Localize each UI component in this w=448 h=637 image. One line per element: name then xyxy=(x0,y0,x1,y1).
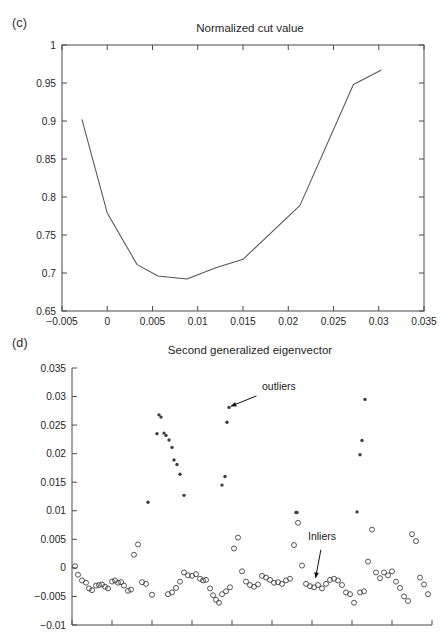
y-tick-label: 0.7 xyxy=(42,268,56,279)
y-tick-label: 0.035 xyxy=(41,363,67,374)
outlier-point xyxy=(172,458,175,461)
outlier-point xyxy=(295,511,298,514)
inlier-point xyxy=(398,585,403,590)
x-tick-label: 0.01 xyxy=(188,316,208,327)
inlier-point xyxy=(129,587,134,592)
y-tick-label: 0.75 xyxy=(36,230,56,241)
outlier-point xyxy=(355,510,358,513)
inlier-point xyxy=(390,569,395,574)
inlier-point xyxy=(418,575,423,580)
outlier-point xyxy=(164,434,167,437)
inlier-point xyxy=(214,597,219,602)
inlier-point xyxy=(386,573,391,578)
inlier-point xyxy=(406,599,411,604)
outlier-point xyxy=(178,473,181,476)
y-tick-label: 0.85 xyxy=(36,154,56,165)
outlier-point xyxy=(358,453,361,456)
inlier-point xyxy=(370,527,375,532)
x-tick-label: 0.025 xyxy=(321,316,347,327)
x-tick-label: −0.005 xyxy=(46,316,78,327)
inlier-point xyxy=(414,539,419,544)
outlier-point xyxy=(170,446,173,449)
x-tick-label: 0.035 xyxy=(411,316,437,327)
annotation-label: Inliers xyxy=(308,530,336,542)
inlier-point xyxy=(204,577,209,582)
x-tick-label: 0 xyxy=(104,316,110,327)
x-tick-label: 0.005 xyxy=(140,316,166,327)
inlier-point xyxy=(136,542,141,547)
outlier-point xyxy=(167,438,170,441)
outlier-point xyxy=(146,501,149,504)
inlier-point xyxy=(232,546,237,551)
y-tick-label: 1 xyxy=(50,40,56,51)
inlier-point xyxy=(402,594,407,599)
inlier-point xyxy=(394,579,399,584)
y-tick-label: 0.025 xyxy=(41,420,67,431)
outlier-point xyxy=(227,406,230,409)
y-tick-label: 0.8 xyxy=(42,192,56,203)
inlier-point xyxy=(374,570,379,575)
y-tick-label: 0.01 xyxy=(46,505,66,516)
y-tick-label: 0.95 xyxy=(36,78,56,89)
inlier-point xyxy=(224,589,229,594)
y-tick-label: 0.65 xyxy=(36,306,56,317)
outlier-point xyxy=(220,483,223,486)
outlier-point xyxy=(360,439,363,442)
outlier-point xyxy=(175,463,178,466)
inlier-point xyxy=(292,543,297,548)
y-tick-label: −0.005 xyxy=(35,591,67,602)
x-tick-label: 0.015 xyxy=(230,316,256,327)
outlier-point xyxy=(159,415,162,418)
outlier-point xyxy=(223,475,226,478)
inlier-point xyxy=(426,592,431,597)
inlier-point xyxy=(208,586,213,591)
inlier-point xyxy=(236,535,241,540)
inlier-point xyxy=(132,552,137,557)
y-tick-label: −0.01 xyxy=(40,620,66,631)
inlier-point xyxy=(126,588,131,593)
inlier-point xyxy=(84,580,89,585)
y-tick-label: 0.005 xyxy=(41,534,67,545)
inlier-point xyxy=(217,600,222,605)
plot-frame xyxy=(62,45,424,311)
outlier-point xyxy=(363,398,366,401)
y-tick-label: 0.9 xyxy=(42,116,56,127)
inlier-point xyxy=(300,563,305,568)
inlier-point xyxy=(366,559,371,564)
y-tick-label: 0 xyxy=(60,562,66,573)
annotation-arrowhead xyxy=(314,572,319,578)
inlier-point xyxy=(150,592,155,597)
inlier-point xyxy=(76,572,81,577)
inlier-point xyxy=(410,532,415,537)
inlier-point xyxy=(174,585,179,590)
y-tick-label: 0.015 xyxy=(41,477,67,488)
inlier-point xyxy=(340,583,345,588)
outlier-point xyxy=(182,494,185,497)
inlier-point xyxy=(178,579,183,584)
inlier-point xyxy=(122,583,127,588)
inlier-point xyxy=(352,600,357,605)
annotation-arrowhead xyxy=(231,402,237,406)
inlier-point xyxy=(296,520,301,525)
inlier-point xyxy=(422,582,427,587)
normalized-cut-value-plot: 0.650.70.750.80.850.90.951−0.00500.0050.… xyxy=(0,0,448,330)
x-tick-label: 0.03 xyxy=(369,316,389,327)
inlier-point xyxy=(240,569,245,574)
inlier-point xyxy=(110,579,115,584)
y-tick-label: 0.02 xyxy=(46,448,66,459)
outlier-point xyxy=(155,432,158,435)
cut-value-curve xyxy=(82,70,382,279)
annotation-label: outliers xyxy=(262,380,296,392)
inlier-point xyxy=(324,581,329,586)
inlier-point xyxy=(211,593,216,598)
outlier-point xyxy=(225,421,228,424)
inlier-point xyxy=(228,585,233,590)
inlier-point xyxy=(378,576,383,581)
panel-c: (c) Normalized cut value 0.650.70.750.80… xyxy=(0,0,448,330)
inlier-point xyxy=(256,582,261,587)
panel-d: (d) Second generalized eigenvector −0.01… xyxy=(0,330,448,637)
second-generalized-eigenvector-plot: −0.01−0.00500.0050.010.0150.020.0250.030… xyxy=(0,330,448,637)
y-tick-label: 0.03 xyxy=(46,391,66,402)
inlier-point xyxy=(320,586,325,591)
x-tick-label: 0.02 xyxy=(278,316,298,327)
